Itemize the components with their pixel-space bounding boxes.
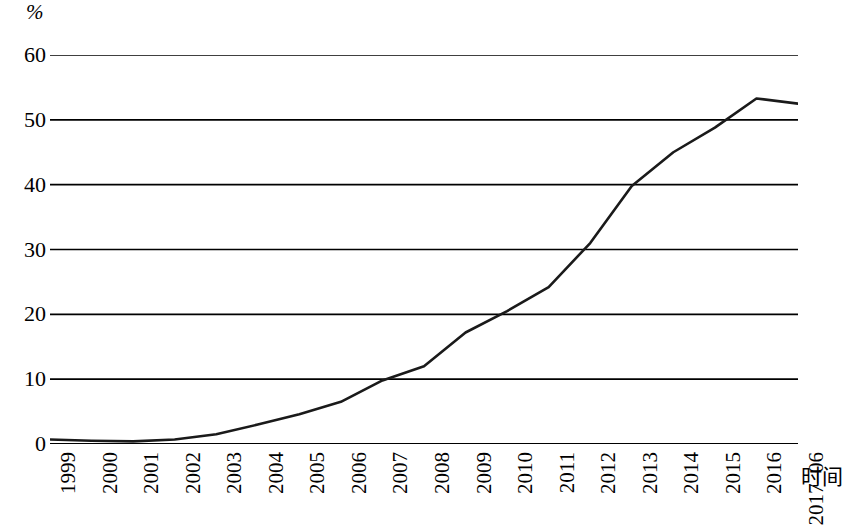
x-axis-tick-label: 2014	[681, 452, 702, 494]
x-axis-tick-label: 2000	[100, 452, 121, 494]
x-axis-tick-label: 2009	[474, 452, 495, 494]
x-axis-tick-label: 2013	[640, 452, 661, 494]
chart-container: % 0102030405060 199920002001200220032004…	[0, 0, 851, 530]
x-axis-tick-labels: 1999200020012002200320042005200620072008…	[0, 0, 851, 530]
x-axis-tick-label: 2012	[598, 452, 619, 494]
x-axis-tick-label: 2003	[224, 452, 245, 494]
x-axis-tick-label: 2010	[515, 452, 536, 494]
x-axis-tick-label: 2005	[307, 452, 328, 494]
x-axis-tick-label: 2015	[723, 452, 744, 494]
x-axis-tick-label: 2011	[557, 452, 578, 493]
x-axis-tick-label: 2008	[432, 452, 453, 494]
x-axis-tick-label: 2007	[390, 452, 411, 494]
x-axis-tick-label: 1999	[58, 452, 79, 494]
x-axis-tick-label: 2017–06	[806, 452, 827, 526]
x-axis-title: 时间	[801, 466, 843, 487]
x-axis-tick-label: 2006	[349, 452, 370, 494]
x-axis-tick-label: 2004	[266, 452, 287, 494]
x-axis-tick-label: 2016	[764, 452, 785, 494]
x-axis-tick-label: 2001	[141, 452, 162, 494]
x-axis-tick-label: 2002	[183, 452, 204, 494]
